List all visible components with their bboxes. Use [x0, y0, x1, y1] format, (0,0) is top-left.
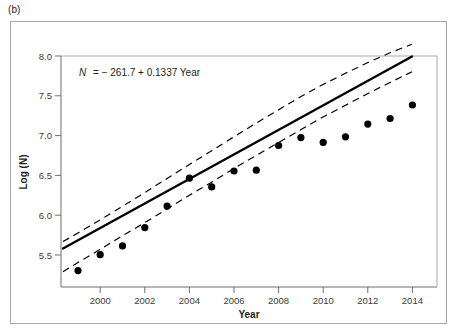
x-tick-label-2004: 2004 [179, 295, 200, 306]
y-axis-title: Log (N) [18, 155, 29, 190]
x-tick-label-2000: 2000 [90, 295, 111, 306]
data-point [387, 115, 394, 122]
data-point [208, 183, 215, 190]
regression-line [63, 57, 412, 249]
data-point [342, 133, 349, 140]
equation-symbol: N [79, 67, 87, 78]
data-point [164, 203, 171, 210]
data-point [297, 134, 304, 141]
x-tick-label-2002: 2002 [134, 295, 155, 306]
y-tick-label-5-5: 5.5 [39, 250, 52, 261]
x-tick-label-2008: 2008 [268, 295, 289, 306]
figure-root: (b) 8.0 7.5 7.0 6.5 [0, 0, 457, 334]
x-tick-label-2006: 2006 [223, 295, 244, 306]
equation-body: = − 261.7 + 0.1337 Year [93, 67, 201, 78]
plot-frame [61, 56, 437, 287]
data-point [186, 175, 193, 182]
x-axis-ticks [100, 287, 412, 293]
x-tick-label-2012: 2012 [357, 295, 378, 306]
y-tick-label-6-5: 6.5 [39, 170, 52, 181]
y-tick-label-7-5: 7.5 [39, 90, 52, 101]
y-tick-label-6-0: 6.0 [39, 210, 52, 221]
x-tick-label-2010: 2010 [313, 295, 334, 306]
y-axis-ticks [55, 56, 61, 255]
data-point [320, 139, 327, 146]
data-point [119, 242, 126, 249]
scatter-chart: 8.0 7.5 7.0 6.5 6.0 5.5 Log (N) 2000 200… [0, 0, 457, 334]
data-point [230, 167, 237, 174]
data-points [74, 101, 416, 274]
data-point [364, 121, 371, 128]
data-point [275, 142, 282, 149]
data-point [253, 167, 260, 174]
data-point [97, 251, 104, 258]
x-axis-title: Year [238, 309, 259, 320]
x-tick-label-2014: 2014 [402, 295, 423, 306]
y-tick-label-7-0: 7.0 [39, 130, 52, 141]
regression-equation: N = − 261.7 + 0.1337 Year [79, 67, 201, 78]
data-point [409, 101, 416, 108]
y-tick-label-8-0: 8.0 [39, 51, 52, 62]
data-point [74, 267, 81, 274]
data-point [141, 224, 148, 231]
